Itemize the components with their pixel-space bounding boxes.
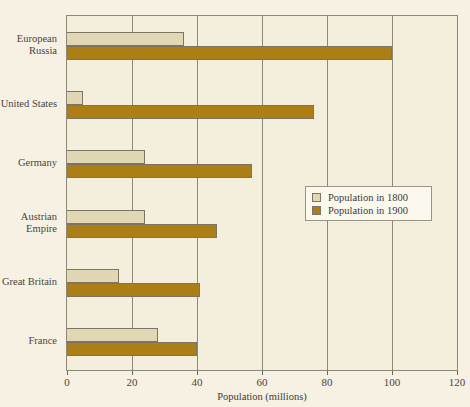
bar-1800	[67, 210, 145, 224]
x-tick	[132, 371, 133, 375]
x-tick-label: 60	[257, 376, 268, 388]
x-tick-label: 120	[449, 376, 466, 388]
bar-1800	[67, 269, 119, 283]
category-label-line: France	[0, 335, 57, 347]
x-tick	[67, 371, 68, 375]
category-label: AustrianEmpire	[0, 211, 62, 235]
legend-item: Population in 1900	[306, 204, 431, 216]
x-tick-label: 0	[64, 376, 70, 388]
bar-1800	[67, 91, 83, 105]
category-label: EuropeanRussia	[0, 33, 62, 57]
gridline	[197, 16, 198, 370]
bar-group	[67, 91, 457, 119]
population-bar-chart: EuropeanRussiaUnited StatesGermanyAustri…	[0, 0, 470, 407]
x-tick-label: 20	[127, 376, 138, 388]
category-label: Great Britain	[0, 276, 62, 288]
x-tick	[392, 371, 393, 375]
bar-group	[67, 32, 457, 60]
category-label-line: United States	[0, 98, 57, 110]
x-axis-title: Population (millions)	[66, 391, 458, 402]
category-label: Germany	[0, 157, 62, 169]
bar-1900	[67, 46, 392, 60]
x-tick	[457, 371, 458, 375]
category-label-line: Russia	[0, 45, 57, 57]
chart-legend: Population in 1800 Population in 1900	[305, 186, 432, 221]
legend-label: Population in 1800	[328, 192, 408, 203]
x-tick-label: 80	[322, 376, 333, 388]
bar-group	[67, 269, 457, 297]
category-axis-labels: EuropeanRussiaUnited StatesGermanyAustri…	[0, 15, 62, 371]
x-tick	[327, 371, 328, 375]
bar-1800	[67, 32, 184, 46]
category-label-line: Austrian	[0, 211, 57, 223]
category-label-line: Great Britain	[0, 276, 57, 288]
category-label-line: Empire	[0, 223, 57, 235]
legend-item: Population in 1800	[306, 191, 431, 203]
bar-group	[67, 150, 457, 178]
bar-1800	[67, 328, 158, 342]
gridline	[132, 16, 133, 370]
bar-1900	[67, 224, 217, 238]
legend-label: Population in 1900	[328, 205, 408, 216]
bar-group	[67, 328, 457, 356]
x-tick-label: 40	[192, 376, 203, 388]
x-tick-label: 100	[384, 376, 401, 388]
category-label-line: Germany	[0, 157, 57, 169]
bar-1900	[67, 164, 252, 178]
bar-1800	[67, 150, 145, 164]
legend-swatch-1800-icon	[312, 193, 321, 202]
category-label: United States	[0, 98, 62, 110]
x-tick	[197, 371, 198, 375]
gridline	[262, 16, 263, 370]
legend-swatch-1900-icon	[312, 206, 321, 215]
bar-1900	[67, 342, 197, 356]
x-tick	[262, 371, 263, 375]
bar-1900	[67, 283, 200, 297]
category-label: France	[0, 335, 62, 347]
category-label-line: European	[0, 33, 57, 45]
bar-1900	[67, 105, 314, 119]
